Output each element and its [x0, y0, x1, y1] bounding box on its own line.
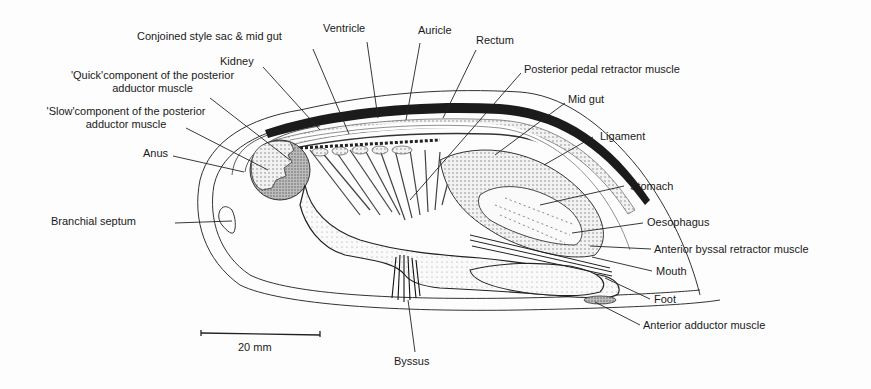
- label-mouth: Mouth: [656, 265, 687, 278]
- label-anterior-adductor: Anterior adductor muscle: [643, 319, 765, 332]
- label-branchial-septum: Branchial septum: [51, 215, 136, 228]
- label-rectum: Rectum: [476, 34, 514, 47]
- retractor-muscle-fan: [310, 150, 455, 220]
- branchial-septum: [219, 207, 236, 233]
- label-anterior-byssal-retractor: Anterior byssal retractor muscle: [654, 243, 809, 256]
- label-mid-gut: Mid gut: [568, 93, 604, 106]
- label-kidney: Kidney: [220, 55, 254, 68]
- label-posterior-pedal-retractor: Posterior pedal retractor muscle: [524, 63, 680, 76]
- mussel-anatomy-diagram: Conjoined style sac & mid gut Ventricle …: [0, 0, 871, 389]
- label-quick-component: 'Quick'component of the posterior adduct…: [60, 69, 245, 95]
- scale-bar-label: 20 mm: [238, 341, 272, 354]
- label-stomach: Stomach: [630, 180, 673, 193]
- label-ventricle: Ventricle: [323, 22, 365, 35]
- label-anus: Anus: [143, 147, 168, 160]
- label-auricle: Auricle: [418, 24, 452, 37]
- anterior-adductor: [584, 296, 616, 304]
- posterior-adductor-muscle: [250, 140, 310, 200]
- label-foot: Foot: [654, 293, 676, 306]
- label-byssus: Byssus: [394, 355, 429, 368]
- label-conjoined-style-sac: Conjoined style sac & mid gut: [137, 30, 282, 43]
- label-ligament: Ligament: [600, 130, 645, 143]
- label-slow-component: 'Slow'component of the posterior adducto…: [36, 105, 216, 131]
- scale-bar: [201, 330, 320, 337]
- label-oesophagus: Oesophagus: [647, 216, 709, 229]
